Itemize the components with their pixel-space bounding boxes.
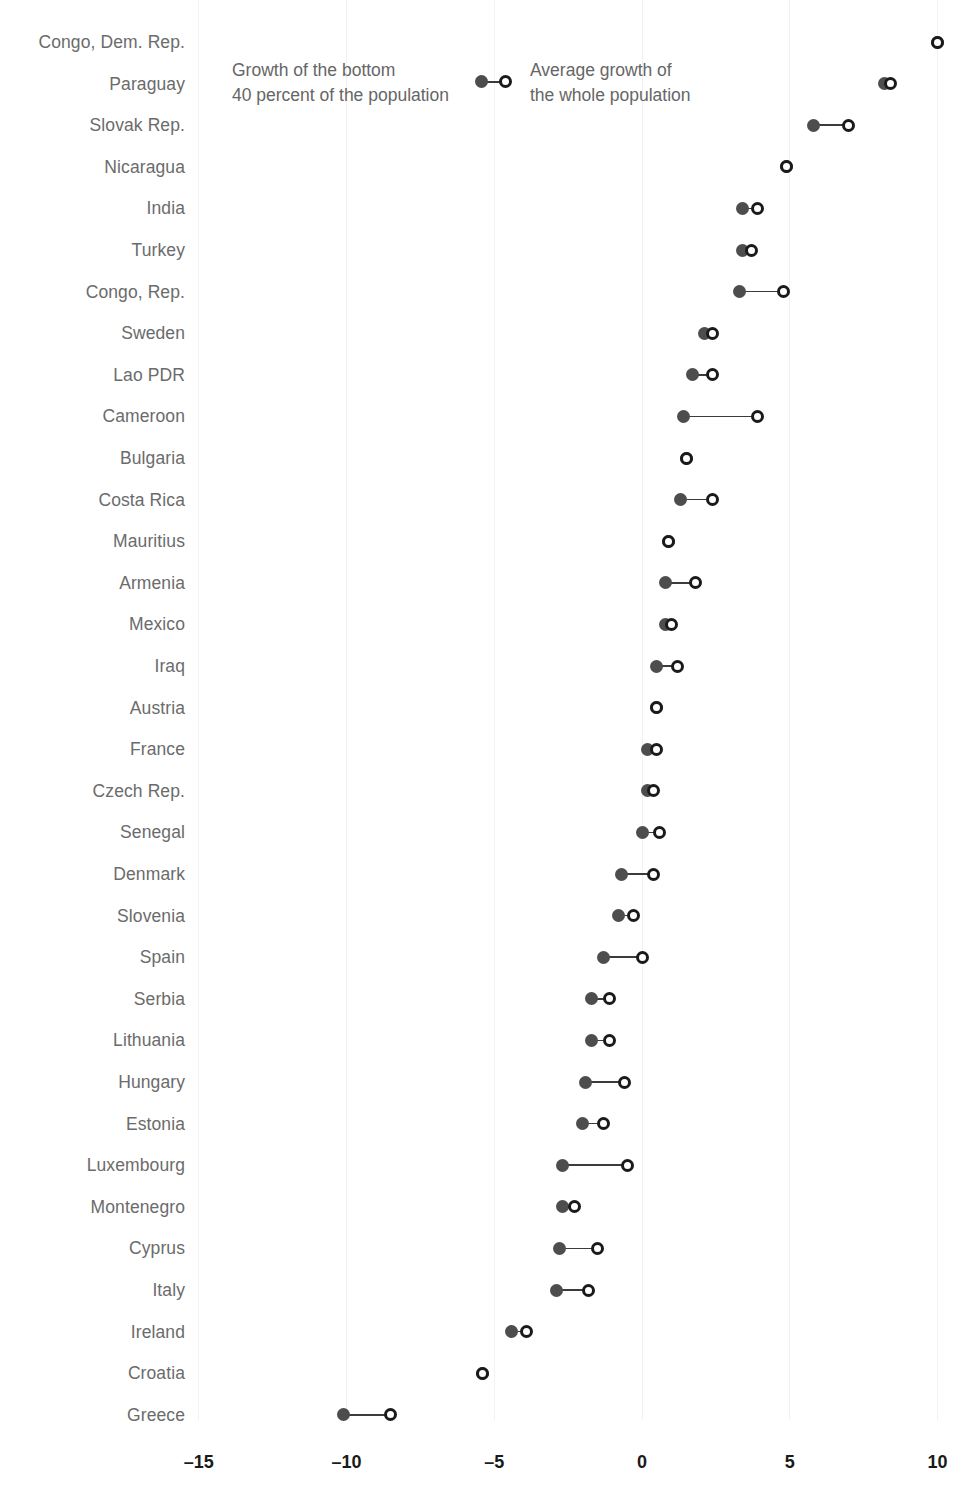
chart-row[interactable]: Czech Rep. bbox=[0, 776, 970, 806]
marker-bottom40-filled-circle-icon[interactable] bbox=[807, 119, 820, 132]
chart-row[interactable]: Armenia bbox=[0, 568, 970, 598]
row-label-country: Turkey bbox=[0, 235, 185, 265]
marker-average-open-circle-icon[interactable] bbox=[520, 1325, 533, 1338]
marker-average-open-circle-icon[interactable] bbox=[591, 1242, 604, 1255]
chart-row[interactable]: Congo, Rep. bbox=[0, 277, 970, 307]
marker-average-open-circle-icon[interactable] bbox=[603, 1034, 616, 1047]
marker-average-open-circle-icon[interactable] bbox=[777, 285, 790, 298]
marker-average-open-circle-icon[interactable] bbox=[568, 1200, 581, 1213]
marker-average-open-circle-icon[interactable] bbox=[650, 701, 663, 714]
marker-bottom40-filled-circle-icon[interactable] bbox=[550, 1284, 563, 1297]
marker-average-open-circle-icon[interactable] bbox=[931, 36, 944, 49]
marker-average-open-circle-icon[interactable] bbox=[665, 618, 678, 631]
marker-bottom40-filled-circle-icon[interactable] bbox=[736, 202, 749, 215]
chart-row[interactable]: Lao PDR bbox=[0, 360, 970, 390]
marker-bottom40-filled-circle-icon[interactable] bbox=[733, 285, 746, 298]
row-label-country: Greece bbox=[0, 1400, 185, 1430]
chart-row[interactable]: Mexico bbox=[0, 609, 970, 639]
marker-average-open-circle-icon[interactable] bbox=[636, 951, 649, 964]
chart-row[interactable]: Ireland bbox=[0, 1317, 970, 1347]
x-axis-tick-label: 5 bbox=[760, 1452, 820, 1473]
marker-average-open-circle-icon[interactable] bbox=[582, 1284, 595, 1297]
chart-row[interactable]: Turkey bbox=[0, 235, 970, 265]
row-label-country: Iraq bbox=[0, 651, 185, 681]
marker-bottom40-filled-circle-icon[interactable] bbox=[615, 868, 628, 881]
chart-row[interactable]: France bbox=[0, 734, 970, 764]
chart-row[interactable]: Nicaragua bbox=[0, 152, 970, 182]
chart-row[interactable]: Lithuania bbox=[0, 1025, 970, 1055]
marker-average-open-circle-icon[interactable] bbox=[618, 1076, 631, 1089]
marker-bottom40-filled-circle-icon[interactable] bbox=[576, 1117, 589, 1130]
marker-bottom40-filled-circle-icon[interactable] bbox=[636, 826, 649, 839]
chart-row[interactable]: Estonia bbox=[0, 1109, 970, 1139]
legend-label-average: Average growth of the whole population bbox=[530, 58, 790, 108]
marker-average-open-circle-icon[interactable] bbox=[603, 992, 616, 1005]
marker-average-open-circle-icon[interactable] bbox=[751, 410, 764, 423]
marker-average-open-circle-icon[interactable] bbox=[706, 327, 719, 340]
marker-bottom40-filled-circle-icon[interactable] bbox=[556, 1159, 569, 1172]
chart-row[interactable]: Austria bbox=[0, 693, 970, 723]
marker-average-open-circle-icon[interactable] bbox=[706, 493, 719, 506]
chart-row[interactable]: Iraq bbox=[0, 651, 970, 681]
chart-row[interactable]: Denmark bbox=[0, 859, 970, 889]
chart-row[interactable]: Costa Rica bbox=[0, 485, 970, 515]
marker-average-open-circle-icon[interactable] bbox=[751, 202, 764, 215]
marker-average-open-circle-icon[interactable] bbox=[706, 368, 719, 381]
marker-bottom40-filled-circle-icon[interactable] bbox=[659, 576, 672, 589]
chart-row[interactable]: Senegal bbox=[0, 817, 970, 847]
marker-average-open-circle-icon[interactable] bbox=[680, 452, 693, 465]
marker-average-open-circle-icon[interactable] bbox=[745, 244, 758, 257]
marker-bottom40-filled-circle-icon[interactable] bbox=[585, 992, 598, 1005]
marker-bottom40-filled-circle-icon[interactable] bbox=[650, 660, 663, 673]
marker-average-open-circle-icon[interactable] bbox=[627, 909, 640, 922]
row-label-country: Italy bbox=[0, 1275, 185, 1305]
chart-row[interactable]: Montenegro bbox=[0, 1192, 970, 1222]
chart-row[interactable]: Italy bbox=[0, 1275, 970, 1305]
marker-average-open-circle-icon[interactable] bbox=[662, 535, 675, 548]
chart-row[interactable]: Hungary bbox=[0, 1067, 970, 1097]
chart-row[interactable]: Sweden bbox=[0, 318, 970, 348]
marker-average-open-circle-icon[interactable] bbox=[671, 660, 684, 673]
marker-average-open-circle-icon[interactable] bbox=[884, 77, 897, 90]
marker-average-open-circle-icon[interactable] bbox=[621, 1159, 634, 1172]
chart-row[interactable]: Slovenia bbox=[0, 901, 970, 931]
marker-average-open-circle-icon[interactable] bbox=[653, 826, 666, 839]
marker-bottom40-filled-circle-icon[interactable] bbox=[597, 951, 610, 964]
chart-row[interactable]: Serbia bbox=[0, 984, 970, 1014]
marker-bottom40-filled-circle-icon[interactable] bbox=[677, 410, 690, 423]
marker-average-open-circle-icon[interactable] bbox=[650, 743, 663, 756]
chart-row[interactable]: Congo, Dem. Rep. bbox=[0, 27, 970, 57]
marker-bottom40-filled-circle-icon[interactable] bbox=[505, 1325, 518, 1338]
marker-bottom40-filled-circle-icon[interactable] bbox=[674, 493, 687, 506]
marker-bottom40-filled-circle-icon[interactable] bbox=[579, 1076, 592, 1089]
dumbbell-chart: Congo, Dem. Rep.ParaguaySlovak Rep.Nicar… bbox=[0, 0, 970, 1495]
marker-average-open-circle-icon[interactable] bbox=[647, 868, 660, 881]
marker-average-open-circle-icon[interactable] bbox=[597, 1117, 610, 1130]
marker-bottom40-filled-circle-icon[interactable] bbox=[337, 1408, 350, 1421]
marker-average-open-circle-icon[interactable] bbox=[780, 160, 793, 173]
chart-row[interactable]: Croatia bbox=[0, 1358, 970, 1388]
marker-average-open-circle-icon[interactable] bbox=[689, 576, 702, 589]
marker-bottom40-filled-circle-icon[interactable] bbox=[686, 368, 699, 381]
chart-row[interactable]: Cameroon bbox=[0, 401, 970, 431]
marker-average-open-circle-icon[interactable] bbox=[842, 119, 855, 132]
row-label-country: Ireland bbox=[0, 1317, 185, 1347]
chart-row[interactable]: Luxembourg bbox=[0, 1150, 970, 1180]
marker-bottom40-filled-circle-icon[interactable] bbox=[612, 909, 625, 922]
row-label-country: Senegal bbox=[0, 817, 185, 847]
chart-row[interactable]: Slovak Rep. bbox=[0, 110, 970, 140]
chart-row[interactable]: Spain bbox=[0, 942, 970, 972]
marker-bottom40-filled-circle-icon[interactable] bbox=[556, 1200, 569, 1213]
marker-average-open-circle-icon[interactable] bbox=[476, 1367, 489, 1380]
marker-bottom40-filled-circle-icon[interactable] bbox=[553, 1242, 566, 1255]
marker-average-open-circle-icon[interactable] bbox=[647, 784, 660, 797]
chart-row[interactable]: India bbox=[0, 193, 970, 223]
chart-row[interactable]: Cyprus bbox=[0, 1233, 970, 1263]
chart-row[interactable]: Bulgaria bbox=[0, 443, 970, 473]
x-axis-tick-label: –15 bbox=[169, 1452, 229, 1473]
marker-bottom40-filled-circle-icon[interactable] bbox=[585, 1034, 598, 1047]
chart-row[interactable]: Mauritius bbox=[0, 526, 970, 556]
marker-average-open-circle-icon[interactable] bbox=[384, 1408, 397, 1421]
legend-label-average-line1: Average growth of bbox=[530, 58, 790, 83]
chart-row[interactable]: Greece bbox=[0, 1400, 970, 1430]
